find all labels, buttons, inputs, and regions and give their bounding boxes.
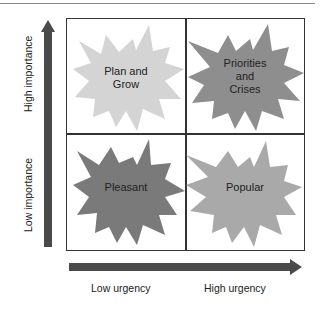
quadrant-priorities-and-crises: Priorities and Crises [186, 19, 304, 133]
top-rule [0, 3, 315, 4]
x-axis-high-label: High urgency [204, 282, 266, 294]
x-axis-low-label: Low urgency [91, 282, 151, 294]
quadrant-label-line: Plan and [67, 65, 185, 78]
quadrant-popular: Popular [186, 135, 304, 249]
quadrant-label-line: Pleasant [67, 181, 185, 194]
y-axis-low-label: Low importance [22, 158, 34, 232]
matrix-grid: Plan and Grow Priorities and Crises Plea… [66, 18, 305, 251]
quadrant-plan-and-grow: Plan and Grow [67, 19, 185, 133]
quadrant-label-line: and [186, 70, 304, 83]
quadrant-label-line: Priorities [186, 57, 304, 70]
quadrant-label-line: Popular [186, 181, 304, 194]
urgency-axis-arrow [68, 258, 304, 276]
quadrant-label-line: Grow [67, 78, 185, 91]
importance-axis-arrow [40, 18, 56, 248]
quadrant-pleasant: Pleasant [67, 135, 185, 249]
quadrant-label-line: Crises [186, 83, 304, 96]
y-axis-high-label: High importance [22, 36, 34, 112]
